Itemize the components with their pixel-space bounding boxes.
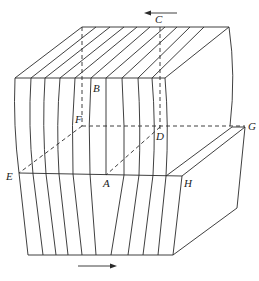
top-face <box>15 27 229 78</box>
label-F: F <box>74 113 82 125</box>
front-face-upper <box>15 78 168 176</box>
label-B: B <box>93 82 100 94</box>
bottom-arrow-right <box>78 264 117 269</box>
edge-EH <box>19 173 182 176</box>
label-E: E <box>5 170 13 182</box>
label-C: C <box>155 13 163 25</box>
sheared-block-diagram: C B F D G E A H <box>0 0 259 281</box>
right-prism <box>166 127 245 255</box>
label-G: G <box>248 120 256 132</box>
front-face-lower <box>19 173 182 255</box>
label-D: D <box>155 130 164 142</box>
right-back-edge <box>229 27 233 126</box>
label-H: H <box>183 177 193 189</box>
label-A: A <box>102 177 110 189</box>
